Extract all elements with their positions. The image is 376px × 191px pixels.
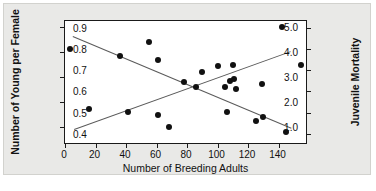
x-axis-tick [126,143,127,148]
x-axis-tick-label: 80 [180,149,191,160]
data-point [125,109,131,115]
plot-area: 1.02.03.04.05.00.40.50.60.70.80.9 [64,20,307,144]
x-axis-tick-label: 40 [119,149,130,160]
data-point [224,109,230,115]
y-axis-left-tick [60,52,65,53]
data-point [253,118,259,124]
data-point [260,114,266,120]
x-axis-tick [157,143,158,148]
x-axis-tick-label: 60 [150,149,161,160]
y-axis-right-title-text: Juvenile Mortality [349,38,361,127]
y-axis-left-tick [60,102,65,103]
y-axis-left-tick [60,27,65,28]
y-axis-left-tick-label: 2.0 [284,96,298,107]
data-point [222,84,228,90]
y-axis-left-tick-label: 3.0 [284,72,298,83]
data-point [230,62,236,68]
y-axis-left-tick [60,77,65,78]
y-axis-left-tick-label: 1.0 [284,121,298,132]
y-axis-left-title: Number of Young per Female [8,20,22,144]
x-axis-tick-label: 100 [208,149,225,160]
y-axis-left-tick-label: 4.0 [284,47,298,58]
x-axis-tick [248,143,249,148]
trend-line [74,51,291,130]
y-axis-right-tick-label: 0.7 [73,65,87,76]
y-axis-right-tick [306,70,311,71]
x-axis-tick [187,143,188,148]
y-axis-right-tick-label: 0.8 [73,44,87,55]
data-point [86,106,92,112]
x-axis-tick [96,143,97,148]
x-axis-tick [65,143,66,148]
y-axis-right-tick-label: 0.5 [73,107,87,118]
x-axis-title: Number of Breeding Adults [64,162,307,174]
data-point [233,86,239,92]
data-point [231,76,237,82]
data-point [146,39,152,45]
y-axis-right-tick [306,49,311,50]
y-axis-left-tick-label: 5.0 [284,22,298,33]
data-point [215,63,221,69]
data-point [117,53,123,59]
data-point [155,112,161,118]
x-axis-tick-label: 140 [269,149,286,160]
y-axis-right-tick [306,134,311,135]
figure-panel: Number of Young per Female Juvenile Mort… [3,3,371,175]
x-axis-tick-label: 120 [239,149,256,160]
data-layer [65,21,306,143]
y-axis-right-tick-label: 0.4 [73,128,87,139]
x-axis-tick [279,143,280,148]
data-point [259,81,265,87]
data-point [166,124,172,130]
y-axis-left-title-text: Number of Young per Female [9,9,21,154]
y-axis-left-tick [60,127,65,128]
data-point [199,69,205,75]
data-point [298,62,304,68]
y-axis-right-tick [306,91,311,92]
x-axis-tick [218,143,219,148]
y-axis-right-tick-label: 0.6 [73,86,87,97]
x-axis-tick-label: 20 [89,149,100,160]
data-point [67,46,73,52]
y-axis-right-tick [306,28,311,29]
y-axis-right-title: Juvenile Mortality [348,20,362,144]
y-axis-right-tick-label: 0.9 [73,23,87,34]
data-point [155,57,161,63]
x-axis-tick-label: 0 [61,149,67,160]
y-axis-right-tick [306,113,311,114]
